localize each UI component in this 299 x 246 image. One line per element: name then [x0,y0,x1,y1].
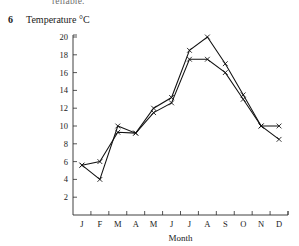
x-axis-tick-label: O [240,219,246,229]
chart-axes [73,35,288,215]
y-axis-tick-label: 18 [60,50,69,60]
x-axis-tick-label: F [98,219,103,229]
data-point-marker [151,106,156,111]
y-axis-tick-label: 20 [60,32,69,42]
x-axis-tick-label: S [223,219,228,229]
y-axis-tick-label: 4 [64,174,69,184]
x-axis-tick-label: N [258,219,264,229]
y-axis-tick-label: 10 [60,121,69,131]
data-point-marker [223,70,228,75]
data-point-marker [115,124,120,129]
data-point-marker [223,61,228,66]
x-axis-tick-label: J [170,219,174,229]
y-axis-tick-label: 12 [60,103,69,113]
x-axis-title: Month [168,233,193,243]
x-axis-tick-label: D [276,219,282,229]
data-point-marker [187,48,192,53]
data-point-marker [241,97,246,102]
y-axis-tick-label: 8 [64,139,68,149]
x-axis-tick-label: M [150,219,158,229]
y-axis-tick-label: 16 [60,68,69,78]
line-chart: 2468101214161820JFMAMJJASONDMonth [0,0,299,246]
data-point-marker [97,177,102,182]
y-axis-tick-label: 2 [64,192,68,202]
data-point-marker [169,100,174,105]
chart-plot-area: 2468101214161820JFMAMJJASONDMonth [0,0,299,246]
x-axis-tick-label: A [133,219,140,229]
x-axis-tick-label: J [188,219,192,229]
x-axis-tick-label: J [80,219,84,229]
x-axis-tick-label: M [114,219,122,229]
x-axis-tick-label: A [204,219,211,229]
y-axis-tick-label: 6 [64,157,68,167]
chart-page: reliable. 6 Temperature °C 2468101214161… [0,0,299,246]
y-axis-tick-label: 14 [60,85,69,95]
data-point-marker [277,137,282,142]
data-point-marker [151,110,156,115]
data-point-marker [205,35,210,40]
